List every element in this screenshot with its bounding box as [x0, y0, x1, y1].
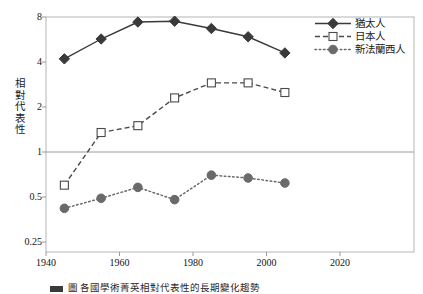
chart-figure: 相對代表性 84210.50.25 19401960198020002020 猶… — [0, 0, 423, 294]
data-point-marker — [206, 23, 216, 33]
legend-item-label: 新法蘭西人 — [352, 44, 405, 56]
data-point-marker — [329, 45, 338, 54]
data-point-marker — [243, 32, 253, 42]
legend-marker-icon — [314, 43, 352, 56]
legend-item-label: 日本人 — [352, 31, 385, 43]
data-point-marker — [328, 18, 338, 28]
legend-item[interactable]: 猶太人 — [314, 17, 418, 30]
data-point-marker — [133, 17, 143, 27]
data-point-marker — [60, 204, 69, 213]
axis-ticks — [42, 17, 340, 256]
figure-caption: 圖 各國學術菁英相對代表性的長期變化趨勢 — [50, 283, 423, 294]
data-series-group — [59, 16, 290, 213]
data-point-marker — [280, 48, 290, 58]
data-point-marker — [170, 195, 179, 204]
data-point-marker — [169, 16, 179, 26]
data-point-marker — [134, 183, 143, 192]
legend-marker-icon — [314, 30, 352, 43]
data-point-marker — [60, 181, 68, 189]
data-series — [60, 171, 289, 213]
data-point-marker — [281, 89, 289, 97]
data-point-marker — [281, 179, 290, 188]
legend-marker-icon — [314, 17, 352, 30]
data-point-marker — [134, 122, 142, 130]
data-series — [60, 79, 289, 189]
data-point-marker — [207, 171, 216, 180]
data-point-marker — [96, 34, 106, 44]
data-point-marker — [59, 54, 69, 64]
caption-text: 圖 各國學術菁英相對代表性的長期變化趨勢 — [68, 283, 260, 293]
data-point-marker — [329, 33, 337, 41]
data-point-marker — [171, 94, 179, 102]
legend-item[interactable]: 新法蘭西人 — [314, 43, 418, 56]
chart-legend: 猶太人日本人新法蘭西人 — [314, 17, 418, 56]
caption-marker-icon — [50, 286, 63, 292]
legend-item[interactable]: 日本人 — [314, 30, 418, 43]
data-point-marker — [244, 79, 252, 87]
data-point-marker — [207, 79, 215, 87]
legend-item-label: 猶太人 — [352, 18, 385, 30]
data-point-marker — [97, 129, 105, 137]
data-point-marker — [244, 174, 253, 183]
data-series — [59, 16, 290, 64]
data-point-marker — [97, 194, 106, 203]
